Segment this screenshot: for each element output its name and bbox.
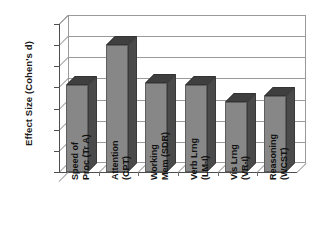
category-label-line-2: Mem (SDR) <box>160 132 171 180</box>
category-label-line-2: (WCST) <box>279 134 290 180</box>
gridline <box>68 36 306 37</box>
category-label-line-2: Proc (Tr A) <box>80 134 91 180</box>
gridline <box>68 15 306 16</box>
plot-area <box>59 24 297 172</box>
category-label-line-1: Vis Lrng <box>229 144 239 180</box>
x-tick-mark <box>99 172 100 176</box>
y-axis-line <box>59 24 60 173</box>
category-label-line-2: (VR-I) <box>239 144 250 180</box>
floor-left-edge <box>59 172 69 182</box>
x-tick-mark <box>257 172 258 176</box>
category-label-line-1: Attention <box>110 141 120 181</box>
category-label: Vis Lrng(VR-I) <box>229 144 250 180</box>
category-label-line-1: Working <box>149 144 159 180</box>
category-label-line-1: Verb Lrng <box>189 138 199 180</box>
category-label-line-1: Reasoning <box>268 134 278 180</box>
x-tick-mark <box>138 172 139 176</box>
category-label: WorkingMem (SDR) <box>149 132 170 180</box>
gridline <box>68 78 306 79</box>
gridline <box>68 57 306 58</box>
bar-chart: Effect Size (Cohen's d) 0.70.60.50.40.30… <box>0 0 320 245</box>
y-axis-title: Effect Size (Cohen's d) <box>23 14 34 174</box>
category-label: Attention(CPT) <box>110 141 131 181</box>
category-label: Reasoning(WCST) <box>268 134 289 180</box>
category-label: Speed ofProc (Tr A) <box>70 134 91 180</box>
x-tick-mark <box>178 172 179 176</box>
category-label: Verb Lrng(LM-I) <box>189 138 210 180</box>
category-label-line-2: (LM-I) <box>199 138 210 180</box>
x-tick-mark <box>218 172 219 176</box>
floor-right-edge <box>297 163 307 173</box>
category-label-line-2: (CPT) <box>120 141 131 181</box>
category-label-line-1: Speed of <box>70 142 80 180</box>
